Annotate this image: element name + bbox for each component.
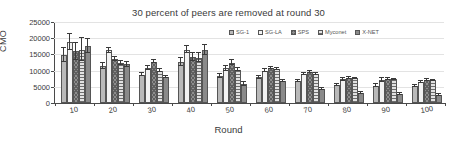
bar-group: [412, 22, 442, 103]
bar-x-net: [241, 84, 247, 103]
error-bar-cap: [157, 68, 162, 69]
x-tick-label: 70: [303, 105, 313, 115]
error-bar: [69, 34, 70, 50]
error-bar-cap: [274, 69, 279, 70]
error-bar-cap: [145, 65, 150, 66]
error-bar-cap: [424, 80, 429, 81]
error-bar-cap: [184, 52, 189, 53]
legend-label: X-NET: [362, 29, 379, 35]
legend-label: SG-1: [236, 29, 249, 35]
legend-swatch-icon: [229, 30, 234, 35]
error-bar-cap: [61, 61, 66, 62]
bar-x-net: [358, 93, 364, 103]
error-bar-cap: [106, 47, 111, 48]
error-bar-cap: [85, 38, 90, 39]
error-bar-cap: [223, 65, 228, 66]
x-tick-mark: [367, 103, 368, 106]
error-bar-cap: [235, 70, 240, 71]
error-bar-cap: [268, 68, 273, 69]
error-bar-cap: [385, 79, 390, 80]
error-bar-cap: [358, 93, 363, 94]
y-tick-label: 20000: [4, 34, 50, 43]
y-tick-mark: [51, 103, 54, 104]
chart-legend: SG-1SG-LASPSMyconetX-NET: [229, 29, 379, 35]
error-bar-cap: [262, 71, 267, 72]
error-bar-cap: [379, 81, 384, 82]
error-bar-cap: [334, 83, 339, 84]
x-tick-mark: [133, 103, 134, 106]
x-tick-mark: [250, 103, 251, 106]
error-bar-cap: [418, 80, 423, 81]
error-bar-cap: [373, 83, 378, 84]
error-bar-cap: [352, 78, 357, 79]
error-bar-cap: [61, 47, 66, 48]
error-bar-cap: [319, 87, 324, 88]
error-bar-cap: [67, 33, 72, 34]
bar-x-net: [397, 94, 403, 103]
y-tick-label: 15000: [4, 50, 50, 59]
error-bar-cap: [196, 61, 201, 62]
error-bar-cap: [157, 71, 162, 72]
y-tick-label: 5000: [4, 83, 50, 92]
error-bar-cap: [235, 67, 240, 68]
error-bar-cap: [397, 94, 402, 95]
error-bar-cap: [223, 70, 228, 71]
error-bar-cap: [301, 74, 306, 75]
error-bar-cap: [418, 82, 423, 83]
legend-swatch-icon: [291, 30, 296, 35]
error-bar-cap: [100, 62, 105, 63]
error-bar-cap: [430, 80, 435, 81]
error-bar-cap: [118, 64, 123, 65]
legend-swatch-icon: [258, 30, 263, 35]
error-bar-cap: [163, 77, 168, 78]
error-bar-cap: [217, 73, 222, 74]
error-bar-cap: [217, 77, 222, 78]
x-tick-label: 60: [264, 105, 274, 115]
error-bar-cap: [190, 52, 195, 53]
error-bar-cap: [280, 81, 285, 82]
bar-x-net: [124, 64, 130, 103]
error-bar: [75, 43, 76, 60]
x-tick-mark: [172, 103, 173, 106]
error-bar-cap: [124, 61, 129, 62]
x-tick-mark: [211, 103, 212, 106]
legend-label: SPS: [298, 29, 309, 35]
bar-x-net: [436, 95, 442, 103]
bar-x-net: [319, 89, 325, 103]
x-axis-label: Round: [0, 124, 457, 135]
x-tick-mark: [94, 103, 95, 106]
x-tick-mark: [406, 103, 407, 106]
error-bar-cap: [313, 74, 318, 75]
error-bar-cap: [241, 85, 246, 86]
error-bar-cap: [106, 52, 111, 53]
error-bar-cap: [334, 85, 339, 86]
error-bar-cap: [262, 68, 267, 69]
x-tick-mark: [328, 103, 329, 106]
error-bar-cap: [256, 78, 261, 79]
legend-swatch-icon: [355, 30, 360, 35]
error-bar-cap: [340, 77, 345, 78]
error-bar-cap: [184, 45, 189, 46]
error-bar-cap: [124, 66, 129, 67]
x-tick-mark: [289, 103, 290, 106]
error-bar-cap: [229, 59, 234, 60]
error-bar-cap: [385, 77, 390, 78]
y-tick-label: 25000: [4, 18, 50, 27]
error-bar-cap: [307, 72, 312, 73]
error-bar-cap: [190, 60, 195, 61]
error-bar-cap: [112, 60, 117, 61]
x-tick-label: 40: [186, 105, 196, 115]
error-bar-cap: [241, 81, 246, 82]
legend-item-x-net: X-NET: [355, 29, 379, 35]
error-bar-cap: [100, 68, 105, 69]
bar-x-net: [280, 81, 286, 103]
error-bar-cap: [163, 75, 168, 76]
x-tick-label: 100: [420, 104, 434, 115]
error-bar-cap: [346, 76, 351, 77]
bar-group: [61, 22, 91, 103]
error-bar-cap: [436, 95, 441, 96]
error-bar-cap: [67, 49, 72, 50]
error-bar-cap: [178, 65, 183, 66]
legend-item-sg-1: SG-1: [229, 29, 249, 35]
error-bar-cap: [379, 77, 384, 78]
